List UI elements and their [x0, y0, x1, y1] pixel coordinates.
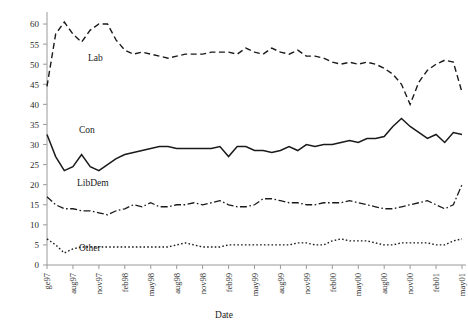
y-tick-label: 45 — [30, 80, 40, 90]
y-tick-label: 35 — [30, 120, 40, 130]
series-label-con: Con — [79, 125, 95, 135]
x-tick-label: may98 — [146, 273, 156, 296]
y-tick-label: 5 — [35, 240, 40, 250]
y-tick-label: 20 — [30, 180, 40, 190]
x-tick-label: aug97 — [68, 273, 78, 294]
x-tick-label: nov00 — [405, 273, 415, 294]
line-chart: 051015202530354045505560 ge97aug97nov97f… — [0, 0, 468, 329]
series-label-lab: Lab — [88, 53, 103, 63]
x-tick-label: may00 — [353, 273, 363, 296]
x-tick-label: nov98 — [198, 273, 208, 294]
y-tick-label: 55 — [30, 40, 40, 50]
series-label-other: Other — [79, 243, 101, 253]
chart-canvas: 051015202530354045505560 ge97aug97nov97f… — [0, 0, 468, 329]
x-tick-label: feb01 — [431, 273, 441, 292]
x-tick-label: aug99 — [276, 273, 286, 294]
x-tick-label: may01 — [457, 273, 467, 296]
y-tick-label: 10 — [30, 220, 40, 230]
x-tick-label: ge97 — [42, 273, 52, 290]
y-tick-label: 30 — [30, 140, 40, 150]
y-tick-label: 0 — [35, 260, 40, 270]
y-tick-label: 15 — [30, 200, 40, 210]
y-tick-label: 25 — [30, 160, 40, 170]
y-tick-label: 50 — [30, 60, 40, 70]
y-tick-label: 40 — [30, 100, 40, 110]
x-tick-label: feb99 — [224, 273, 234, 292]
x-tick-label: nov97 — [94, 273, 104, 294]
series-label-libdem: LibDem — [77, 178, 109, 188]
x-tick-label: aug98 — [172, 273, 182, 294]
x-axis-title: Date — [215, 310, 233, 320]
x-tick-label: nov99 — [302, 273, 312, 294]
x-tick-label: aug00 — [379, 273, 389, 294]
x-tick-label: may99 — [250, 273, 260, 296]
y-tick-label: 60 — [30, 19, 40, 29]
x-tick-label: feb98 — [120, 273, 130, 292]
x-tick-label: feb00 — [328, 273, 338, 292]
